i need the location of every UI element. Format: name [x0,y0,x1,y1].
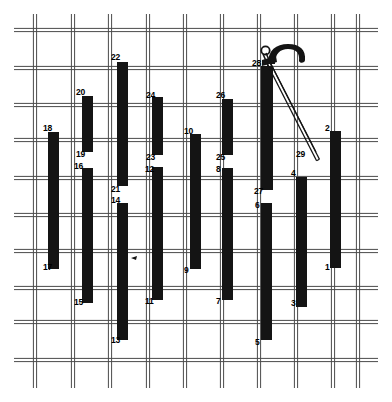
reference-label-1: 1 [325,263,330,272]
bar-1 [330,131,341,268]
tick-pointer-icon [131,256,137,260]
reference-label-27: 27 [254,187,263,196]
reference-label-25: 25 [216,153,225,162]
reference-label-6: 6 [255,201,260,210]
bar-25 [222,99,233,155]
reference-label-8: 8 [216,165,221,174]
bar-7 [222,168,233,300]
bar-9 [190,134,201,269]
reference-label-17: 17 [43,263,52,272]
reference-label-28: 28 [252,59,261,68]
reference-label-24: 24 [146,91,155,100]
reference-label-5: 5 [255,338,260,347]
bar-27 [261,66,273,190]
bar-19 [82,96,93,152]
bar-17 [48,132,59,269]
bar-21 [117,62,128,186]
reference-label-4: 4 [291,169,296,178]
reference-label-12: 12 [145,165,154,174]
reference-label-26: 26 [216,91,225,100]
reference-label-21: 21 [111,185,120,194]
bar-11 [152,167,163,300]
bar-13 [117,203,128,340]
reference-label-11: 11 [145,297,154,306]
reference-label-14: 14 [111,196,120,205]
rod-29-edge-a [267,63,317,161]
bar-23 [152,97,163,155]
reference-label-2: 2 [325,124,330,133]
rod-29-tip [317,159,320,160]
reference-label-22: 22 [111,53,120,62]
reference-label-23: 23 [146,153,155,162]
reference-label-19: 19 [76,150,85,159]
reference-label-7: 7 [216,297,221,306]
reference-label-10: 10 [184,127,193,136]
bar-15 [82,168,93,303]
patent-figure: 1817201916152221141324231211109262587282… [0,0,392,402]
reference-label-15: 15 [74,298,83,307]
rod-29 [267,61,320,160]
bar-5 [261,203,272,340]
figure-artwork [0,0,392,402]
bar-3 [296,177,307,307]
reference-label-18: 18 [43,124,52,133]
reference-label-29: 29 [296,150,305,159]
reference-label-20: 20 [76,88,85,97]
reference-label-9: 9 [184,266,189,275]
reference-label-3: 3 [291,299,296,308]
reference-label-16: 16 [74,162,83,171]
reference-label-13: 13 [111,336,120,345]
